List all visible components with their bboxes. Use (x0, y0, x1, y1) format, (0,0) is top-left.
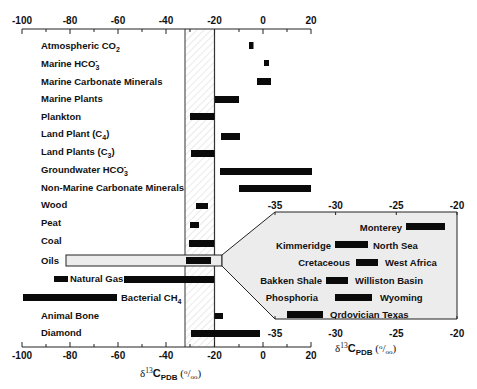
label-natural-gas: Natural Gas (70, 273, 123, 284)
label-wood: Wood (41, 199, 67, 210)
top-tick-label: -80 (63, 15, 78, 26)
label-coal: Coal (41, 235, 62, 246)
bar-animal-bone (215, 313, 224, 319)
bar-oils (186, 257, 211, 264)
bottom-tick-label: -80 (63, 350, 78, 361)
label-non-marine-carbonate-minerals: Non-Marine Carbonate Minerals (41, 182, 184, 193)
bar-cretaceous (356, 259, 378, 266)
bar-monterey (406, 223, 445, 230)
bar-bakken (326, 277, 348, 284)
x-axis-title: δ13CPDB (o/oo) (140, 366, 202, 382)
bar-wood (196, 203, 208, 209)
bar-coal (189, 240, 214, 247)
bar-non-marine-carbonate-minerals (239, 185, 311, 192)
bar-groundwater-hco3 (220, 168, 312, 175)
label-plankton: Plankton (41, 111, 81, 122)
inset-label-north-sea: North Sea (373, 240, 419, 251)
bar-plankton (190, 113, 215, 120)
bottom-tick-label: -60 (111, 350, 126, 361)
bar-natural-gas-low (54, 276, 68, 282)
label-atmospheric-co2: Atmospheric CO2 (41, 40, 120, 53)
bar-diamond (191, 330, 260, 337)
inset-label-monterey: Monterey (360, 222, 403, 233)
inset-label-cretaceous: Cretaceous (298, 257, 350, 268)
label-groundwater-hco3: Groundwater HCO3- (41, 163, 128, 177)
inset-axis-title: δ13CPDB (o/oo) (335, 341, 397, 357)
bar-bacterial-ch4 (23, 294, 117, 301)
label-marine-carbonate-minerals: Marine Carbonate Minerals (41, 76, 162, 87)
inset-bottom-tick: -20 (450, 328, 465, 339)
bottom-tick-label: 0 (260, 350, 266, 361)
top-tick-label: 0 (260, 15, 266, 26)
bar-atmospheric-co2 (249, 42, 254, 49)
label-animal-bone: Animal Bone (41, 310, 99, 321)
inset-top-tick: -25 (389, 200, 404, 211)
carbon-isotope-chart: -100 -80 -60 -40 -20 0 20 -100 -80 -60 -… (0, 0, 477, 389)
bottom-tick-label: -20 (207, 350, 222, 361)
inset-top-tick: -30 (328, 200, 343, 211)
label-diamond: Diamond (41, 327, 82, 338)
top-tick-label: -60 (111, 15, 126, 26)
inset-label-kimmeridge: Kimmeridge (276, 240, 331, 251)
shaded-band (185, 29, 215, 347)
inset-label-phosphoria: Phosphoria (266, 292, 319, 303)
top-tick-label: -100 (12, 15, 32, 26)
label-oils: Oils (41, 255, 59, 266)
label-peat: Peat (41, 217, 62, 228)
inset-bottom-tick: -25 (389, 328, 404, 339)
inset-top-tick: -35 (268, 200, 283, 211)
label-marine-hco3: Marine HCO3- (41, 57, 99, 71)
inset-top-tick: -20 (450, 200, 465, 211)
top-tick-label: -40 (159, 15, 174, 26)
bar-natural-gas-high (124, 276, 214, 283)
label-bacterial-ch4: Bacterial CH4 (121, 292, 182, 305)
bar-marine-plants (215, 96, 239, 103)
category-labels: Atmospheric CO2 Marine HCO3- Marine Carb… (41, 40, 184, 338)
label-marine-plants: Marine Plants (41, 93, 103, 104)
bottom-tick-label: -100 (12, 350, 32, 361)
bottom-axis: -100 -80 -60 -40 -20 0 20 δ13CPDB (o/oo) (12, 342, 317, 382)
inset-bottom-tick: -30 (328, 328, 343, 339)
label-land-plants-c3: Land Plants (C3) (41, 146, 115, 159)
bar-land-plants-c3 (191, 150, 215, 157)
top-tick-label: 20 (305, 15, 317, 26)
top-axis: -100 -80 -60 -40 -20 0 20 (12, 15, 317, 34)
bottom-tick-label: 20 (305, 350, 317, 361)
bar-marine-hco3 (264, 60, 269, 66)
bar-marine-carbonate-minerals (257, 78, 271, 85)
bar-phosphoria (335, 294, 372, 301)
bar-kimmeridge (335, 241, 368, 248)
inset-label-west-africa: West Africa (385, 257, 437, 268)
bar-land-plant-c4 (221, 133, 240, 140)
inset-label-ordovician: Ordovician Texas (330, 309, 409, 320)
top-tick-label: -20 (207, 15, 222, 26)
bottom-tick-label: -40 (159, 350, 174, 361)
bar-peat (190, 222, 199, 228)
label-land-plant-c4: Land Plant (C4) (41, 128, 109, 141)
inset-label-bakken: Bakken Shale (260, 275, 322, 286)
inset-bottom-tick: -35 (268, 328, 283, 339)
inset-label-williston: Williston Basin (355, 275, 423, 286)
bar-ordovician (287, 311, 323, 318)
inset-label-wyoming: Wyoming (380, 292, 423, 303)
